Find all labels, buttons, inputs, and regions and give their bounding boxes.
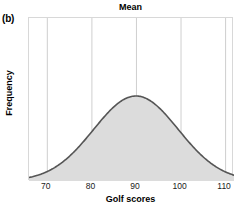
distribution-fill-area — [29, 96, 234, 181]
x-axis-label: Golf scores — [28, 194, 233, 204]
chart-title-mean: Mean — [28, 2, 233, 12]
normal-curve-plot — [29, 18, 234, 181]
figure-panel-b: (b) Mean Frequency 708090100110 Golf sco… — [0, 0, 242, 209]
x-tick-label-90: 90 — [115, 181, 155, 191]
x-tick-label-110: 110 — [204, 181, 242, 191]
x-axis-tick-labels: 708090100110 — [0, 181, 242, 193]
x-tick-label-80: 80 — [70, 181, 110, 191]
panel-label: (b) — [2, 13, 14, 24]
x-tick-label-100: 100 — [160, 181, 200, 191]
x-tick-label-70: 70 — [26, 181, 66, 191]
y-axis-label: Frequency — [4, 63, 14, 123]
plot-area — [28, 17, 233, 180]
